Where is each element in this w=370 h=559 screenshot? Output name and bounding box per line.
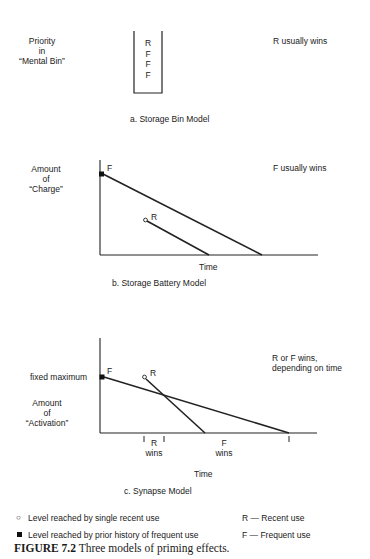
ylabel-line: “Charge”: [18, 184, 74, 194]
region-label: wins: [140, 448, 168, 458]
legend-item-key: F — Frequent use: [242, 530, 311, 540]
figure-number: FIGURE 7.2: [14, 542, 76, 554]
r-decay-line: [146, 379, 205, 433]
region-label: wins: [210, 448, 238, 458]
panel-c-xlabel: Time: [194, 469, 213, 479]
panel-a-ylabel: Priority in “Mental Bin”: [12, 36, 72, 66]
bin-contents: R F F F: [138, 38, 158, 80]
panel-c-ylabel: Amount of “Activation”: [15, 398, 79, 428]
bin-item: F: [138, 70, 158, 81]
region-label: F: [210, 438, 238, 448]
legend-open-circle-icon: ○: [16, 513, 21, 523]
bin-item: R: [138, 38, 158, 49]
ylabel-line: of: [15, 408, 79, 418]
legend-item-text: Level reached by prior history of freque…: [28, 530, 199, 540]
ylabel-line: of: [18, 174, 74, 184]
region-f-wins: F wins: [210, 438, 238, 458]
panel-c-annotation: R or F wins, depending on time: [272, 353, 342, 373]
ylabel-line: “Mental Bin”: [12, 56, 72, 66]
panel-b-xlabel: Time: [199, 262, 218, 272]
panel-b-ylabel: Amount of “Charge”: [18, 164, 74, 194]
annotation-line: depending on time: [272, 363, 342, 373]
open-circle-marker-icon: [144, 218, 148, 222]
filled-square-marker-icon: [99, 172, 104, 177]
panel-c-caption: c. Synapse Model: [124, 486, 192, 496]
ylabel-line: in: [12, 46, 72, 56]
r-decay-line: [147, 221, 209, 255]
ylabel-line: Amount: [15, 398, 79, 408]
legend-item-text: Level reached by single recent use: [28, 513, 159, 523]
r-series-label: R: [150, 368, 156, 378]
panel-b-annotation: F usually wins: [273, 163, 326, 173]
figure-caption-text: Three models of priming effects.: [79, 542, 230, 554]
bin-item: F: [138, 59, 158, 70]
open-circle-marker-icon: [143, 375, 147, 379]
ylabel-line: Amount: [18, 164, 74, 174]
region-label: R: [140, 438, 168, 448]
panel-a-caption: a. Storage Bin Model: [130, 114, 209, 124]
r-series-label: R: [151, 212, 157, 222]
filled-square-marker-icon: [100, 375, 105, 380]
f-decay-line: [104, 377, 289, 433]
legend-filled-square-icon: [17, 532, 22, 537]
annotation-line: R or F wins,: [272, 353, 342, 363]
fixed-maximum-label: fixed maximum: [30, 372, 87, 382]
figure-caption: FIGURE 7.2 Three models of priming effec…: [14, 542, 230, 554]
bin-item: F: [138, 49, 158, 60]
ylabel-line: Priority: [12, 36, 72, 46]
region-r-wins: R wins: [140, 438, 168, 458]
f-series-label: F: [107, 163, 112, 173]
f-series-label: F: [107, 366, 112, 376]
ylabel-line: “Activation”: [15, 418, 79, 428]
f-decay-line: [103, 174, 262, 255]
panel-b-caption: b. Storage Battery Model: [112, 278, 206, 288]
panel-a-annotation: R usually wins: [273, 36, 327, 46]
legend-item-key: R — Recent use: [242, 513, 304, 523]
